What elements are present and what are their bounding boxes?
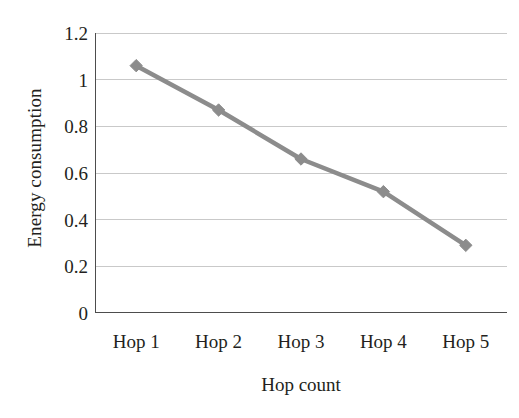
x-tick-label: Hop 3 — [278, 330, 325, 354]
plot-canvas — [95, 33, 507, 313]
x-tick-label: Hop 5 — [442, 330, 489, 354]
y-tick-label: 1 — [40, 70, 88, 89]
y-tick-label: 0.6 — [40, 164, 88, 183]
y-tick-label: 0 — [40, 304, 88, 323]
x-tick-label: Hop 1 — [113, 330, 160, 354]
y-axis-tick-labels: 00.20.40.60.811.2 — [40, 0, 88, 418]
x-tick-label: Hop 2 — [195, 330, 242, 354]
line-chart: Energy consumption 00.20.40.60.811.2 Hop… — [0, 0, 519, 418]
y-tick-label: 0.8 — [40, 117, 88, 136]
x-tick-label: Hop 4 — [360, 330, 407, 354]
y-tick-label: 0.2 — [40, 257, 88, 276]
x-axis-title: Hop count — [95, 374, 507, 396]
plot-area — [95, 33, 507, 313]
y-tick-label: 0.4 — [40, 210, 88, 229]
x-axis-tick-labels: Hop 1Hop 2Hop 3Hop 4Hop 5 — [95, 330, 507, 358]
y-tick-label: 1.2 — [40, 24, 88, 43]
